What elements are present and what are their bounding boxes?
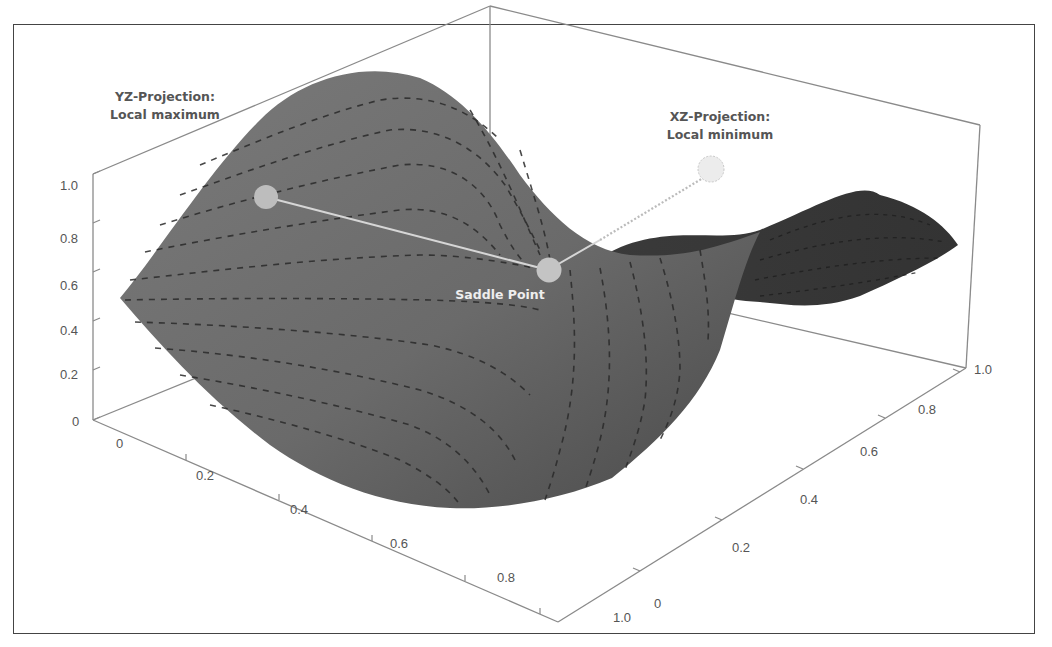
x-tick-label: 0 — [116, 436, 123, 451]
z-tick-label: 0.2 — [60, 367, 78, 382]
x-tick-label: 0.2 — [196, 468, 214, 483]
x-tick-label: 0.6 — [390, 536, 408, 551]
saddle-point-label: Saddle Point — [440, 286, 560, 304]
yz-projection-label: YZ-Projection: Local maximum — [95, 88, 235, 124]
y-tick-label: 0 — [654, 596, 661, 611]
xz-projection-label: XZ-Projection: Local minimum — [650, 108, 790, 144]
y-tick-label: 0.6 — [860, 444, 878, 459]
x-tick-label: 0.4 — [290, 502, 308, 517]
x-tick-label: 1.0 — [613, 610, 631, 625]
y-tick-label: 0.4 — [800, 492, 818, 507]
xz-projection-marker — [698, 156, 724, 182]
xz-projection-title: XZ-Projection: — [650, 108, 790, 126]
z-tick-label: 0.4 — [60, 323, 78, 338]
yz-projection-title: YZ-Projection: — [95, 88, 235, 106]
xz-projection-subtitle: Local minimum — [650, 126, 790, 144]
z-tick-label: 1.0 — [60, 178, 78, 193]
z-tick-label: 0.8 — [60, 231, 78, 246]
saddle-surface-figure: 1.0 0.8 0.6 0.4 0.2 0 0 0.2 0.4 0.6 0.8 … — [0, 0, 1052, 647]
z-axis-ticks — [93, 171, 100, 420]
y-tick-label: 1.0 — [974, 362, 992, 377]
yz-projection-subtitle: Local maximum — [95, 106, 235, 124]
x-tick-label: 0.8 — [497, 570, 515, 585]
y-tick-label: 0.2 — [732, 540, 750, 555]
y-tick-label: 0.8 — [918, 402, 936, 417]
saddle-point-marker — [537, 258, 562, 283]
connector-xz-ghost — [600, 175, 708, 240]
z-tick-label: 0.6 — [60, 278, 78, 293]
z-tick-label: 0 — [72, 414, 79, 429]
yz-projection-marker — [254, 185, 278, 209]
